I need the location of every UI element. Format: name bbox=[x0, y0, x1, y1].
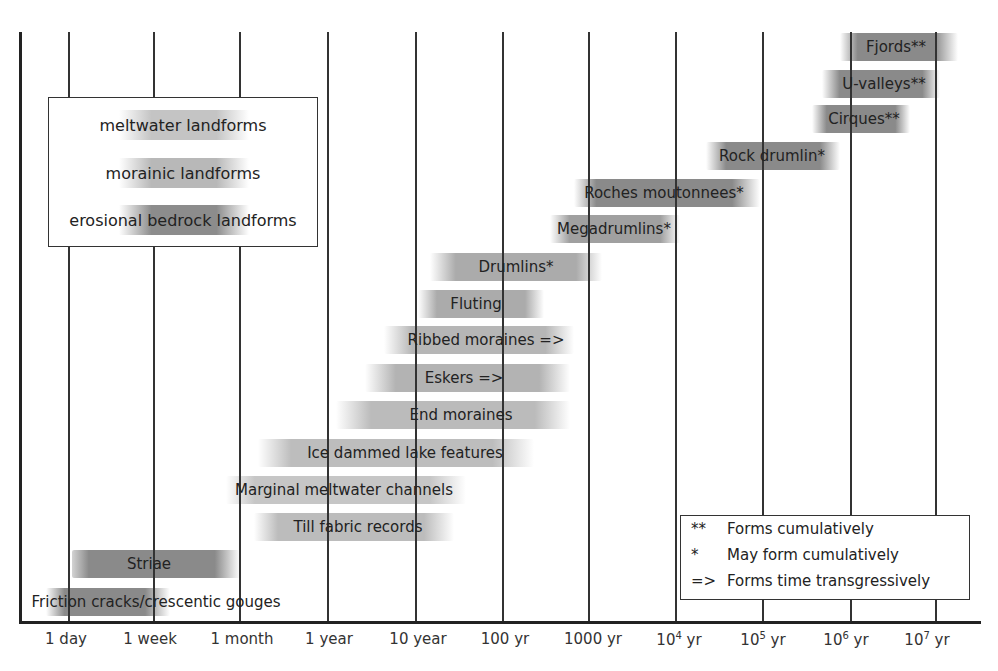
label-roches-moutonnees: Roches moutonnees* bbox=[584, 184, 744, 202]
tick-suffix: yr bbox=[682, 631, 702, 649]
legend-item-morainic: morainic landforms bbox=[49, 164, 317, 183]
tick-10e4-yr: 104 yr bbox=[656, 630, 701, 649]
label-rock-drumlin: Rock drumlin* bbox=[719, 147, 825, 165]
label-friction-cracks: Friction cracks/crescentic gouges bbox=[32, 593, 281, 611]
tick-1-day: 1 day bbox=[45, 630, 87, 648]
tick-base: 10 bbox=[823, 631, 842, 649]
tick-base: 10 bbox=[656, 631, 675, 649]
key-text: Forms time transgressively bbox=[727, 572, 930, 590]
key-text: Forms cumulatively bbox=[727, 520, 874, 538]
gridline-1000-yr bbox=[588, 32, 590, 622]
landform-timescale-diagram: Fjords** U-valleys** Cirques** Rock drum… bbox=[0, 0, 998, 671]
key-symbol: ** bbox=[691, 520, 727, 538]
label-u-valleys: U-valleys** bbox=[842, 75, 925, 93]
key-row-may-cumulative: *May form cumulatively bbox=[691, 546, 899, 564]
label-fluting: Fluting bbox=[450, 295, 501, 313]
y-axis-line bbox=[19, 32, 22, 623]
key-symbol: => bbox=[691, 572, 727, 590]
tick-10-year: 10 year bbox=[389, 630, 446, 648]
tick-100-yr: 100 yr bbox=[481, 630, 529, 648]
key-text: May form cumulatively bbox=[727, 546, 899, 564]
key-row-cumulative: **Forms cumulatively bbox=[691, 520, 874, 538]
tick-base: 10 bbox=[740, 631, 759, 649]
tick-10e7-yr: 107 yr bbox=[904, 630, 949, 649]
label-ribbed-moraines: Ribbed moraines => bbox=[408, 331, 565, 349]
label-marginal-meltwater-channels: Marginal meltwater channels bbox=[235, 481, 453, 499]
tick-suffix: yr bbox=[766, 631, 786, 649]
label-fjords: Fjords** bbox=[866, 38, 926, 56]
tick-1-week: 1 week bbox=[123, 630, 177, 648]
tick-suffix: yr bbox=[930, 631, 950, 649]
label-drumlins: Drumlins* bbox=[479, 258, 554, 276]
legend-item-erosional: erosional bedrock landforms bbox=[49, 211, 317, 230]
tick-1-month: 1 month bbox=[211, 630, 274, 648]
tick-suffix: yr bbox=[849, 631, 869, 649]
category-legend: meltwater landforms morainic landforms e… bbox=[48, 97, 318, 247]
tick-10e5-yr: 105 yr bbox=[740, 630, 785, 649]
legend-item-meltwater: meltwater landforms bbox=[49, 116, 317, 135]
label-megadrumlins: Megadrumlins* bbox=[557, 220, 671, 238]
label-end-moraines: End moraines bbox=[409, 406, 512, 424]
symbol-key: **Forms cumulatively *May form cumulativ… bbox=[680, 515, 970, 600]
label-cirques: Cirques** bbox=[828, 110, 900, 128]
key-symbol: * bbox=[691, 546, 727, 564]
tick-10e6-yr: 106 yr bbox=[823, 630, 868, 649]
label-striae: Striae bbox=[127, 555, 171, 573]
x-axis-line bbox=[19, 621, 981, 624]
tick-1-year: 1 year bbox=[305, 630, 353, 648]
gridline-10e4-yr bbox=[675, 32, 677, 622]
label-till-fabric-records: Till fabric records bbox=[293, 518, 422, 536]
label-eskers: Eskers => bbox=[425, 369, 504, 387]
gridline-100-yr bbox=[502, 32, 504, 622]
tick-base: 10 bbox=[904, 631, 923, 649]
label-ice-dammed-lake-features: Ice dammed lake features bbox=[307, 444, 503, 462]
tick-1000-yr: 1000 yr bbox=[564, 630, 622, 648]
key-row-time-transgressive: =>Forms time transgressively bbox=[691, 572, 930, 590]
